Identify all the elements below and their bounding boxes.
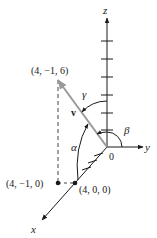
projection-lines: [58, 80, 75, 183]
vector-v-label: v: [71, 107, 76, 118]
angle-beta-label: β: [123, 124, 130, 136]
z-axis-label: z: [102, 4, 108, 16]
point-4-0-0: [73, 181, 78, 186]
z-axis: [101, 18, 113, 147]
point-label-4-neg1-0: (4, −1, 0): [6, 178, 43, 190]
point-4-neg1-0: [56, 181, 61, 186]
y-axis-label: y: [144, 141, 150, 153]
angle-alpha-arc: [77, 124, 88, 180]
angle-gamma-arc: [82, 101, 107, 112]
direction-angles-diagram: z y x 0 (4, −1, 6) (4, −1, 0) (4, 0, 0) …: [0, 0, 157, 238]
point-label-4-neg1-6: (4, −1, 6): [31, 65, 68, 77]
point-label-4-0-0: (4, 0, 0): [79, 184, 111, 196]
angle-gamma-label: γ: [82, 88, 87, 100]
angle-alpha-label: α: [71, 141, 77, 153]
origin-label: 0: [109, 151, 114, 162]
x-axis-label: x: [30, 223, 36, 235]
